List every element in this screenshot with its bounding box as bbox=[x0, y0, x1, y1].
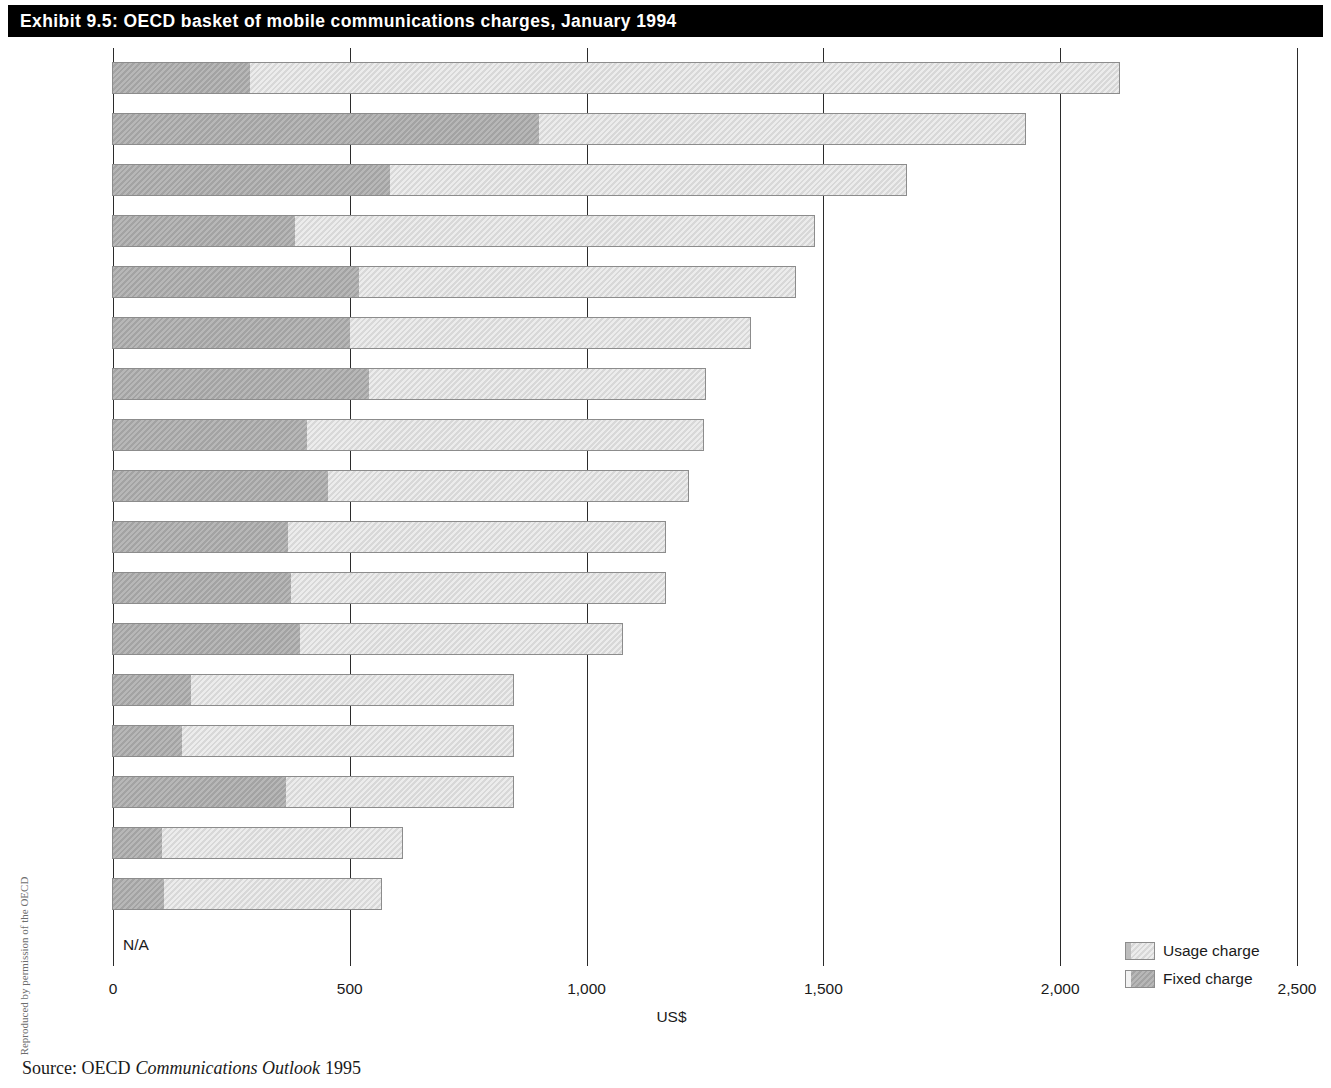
stacked-bar[interactable] bbox=[113, 777, 513, 807]
bar-row: Denmark bbox=[113, 828, 402, 858]
bar-segment-fixed[interactable] bbox=[113, 828, 162, 858]
usage-swatch-icon bbox=[1126, 943, 1154, 959]
bar-segment-usage[interactable] bbox=[164, 879, 380, 909]
bar-segment-fixed[interactable] bbox=[113, 114, 539, 144]
bar-segment-fixed[interactable] bbox=[113, 675, 191, 705]
x-axis-ticks: 05001,0001,5002,0002,500 bbox=[113, 966, 1297, 1006]
x-tick-label-2000: 2,000 bbox=[1041, 980, 1080, 998]
reproduction-credit: Reproduced by permission of the OECD bbox=[18, 866, 30, 1066]
na-marker: N/A bbox=[123, 930, 149, 960]
fixed-swatch-icon bbox=[1126, 971, 1154, 987]
stacked-bar[interactable] bbox=[113, 624, 622, 654]
stacked-bar[interactable] bbox=[113, 471, 688, 501]
bar-segment-usage[interactable] bbox=[300, 624, 622, 654]
stacked-bar[interactable] bbox=[113, 675, 513, 705]
bar-row: Turkey bbox=[113, 63, 1119, 93]
bar-segment-usage[interactable] bbox=[539, 114, 1024, 144]
exhibit-title-bar: Exhibit 9.5: OECD basket of mobile commu… bbox=[8, 5, 1323, 37]
stacked-bar[interactable] bbox=[113, 573, 665, 603]
stacked-bar[interactable] bbox=[113, 267, 795, 297]
plot-area: TurkeyFrancePortugalGermanySpainUKLuxemb… bbox=[113, 48, 1297, 966]
bar-segment-usage[interactable] bbox=[390, 165, 906, 195]
stacked-bar[interactable] bbox=[113, 828, 402, 858]
bar-segment-fixed[interactable] bbox=[113, 777, 286, 807]
stacked-bar[interactable] bbox=[113, 420, 703, 450]
x-tick-label-1500: 1,500 bbox=[804, 980, 843, 998]
stacked-bar[interactable] bbox=[113, 522, 665, 552]
bar-segment-usage[interactable] bbox=[295, 216, 814, 246]
bar-row: Belgium bbox=[113, 573, 665, 603]
chart-container: TurkeyFrancePortugalGermanySpainUKLuxemb… bbox=[0, 40, 1331, 1040]
stacked-bar[interactable] bbox=[113, 63, 1119, 93]
bar-segment-fixed[interactable] bbox=[113, 420, 307, 450]
bar-segment-fixed[interactable] bbox=[113, 267, 359, 297]
bar-segment-usage[interactable] bbox=[291, 573, 665, 603]
source-prefix: Source: OECD bbox=[22, 1058, 130, 1078]
bar-segment-fixed[interactable] bbox=[113, 879, 164, 909]
bar-segment-fixed[interactable] bbox=[113, 624, 300, 654]
bar-segment-usage[interactable] bbox=[350, 318, 750, 348]
bar-segment-usage[interactable] bbox=[286, 777, 513, 807]
gridline-2500 bbox=[1297, 48, 1298, 966]
bar-segment-usage[interactable] bbox=[369, 369, 705, 399]
legend-label-fixed: Fixed charge bbox=[1163, 970, 1253, 988]
bar-segment-usage[interactable] bbox=[182, 726, 514, 756]
bar-segment-fixed[interactable] bbox=[113, 369, 369, 399]
bar-row: Portugal bbox=[113, 165, 906, 195]
stacked-bar[interactable] bbox=[113, 165, 906, 195]
bar-row: Ireland bbox=[113, 624, 622, 654]
bar-segment-usage[interactable] bbox=[359, 267, 795, 297]
bar-row: Sweden bbox=[113, 726, 513, 756]
bar-segment-fixed[interactable] bbox=[113, 726, 182, 756]
bar-row: Finland bbox=[113, 879, 381, 909]
bar-row: Norway bbox=[113, 675, 513, 705]
bar-segment-fixed[interactable] bbox=[113, 471, 328, 501]
stacked-bar[interactable] bbox=[113, 726, 513, 756]
legend-item-fixed: Fixed charge bbox=[1126, 965, 1316, 993]
chart-legend: Usage charge Fixed charge bbox=[1126, 937, 1316, 993]
bar-segment-fixed[interactable] bbox=[113, 318, 350, 348]
bar-row: Switzerland bbox=[113, 777, 513, 807]
bar-row: Austria bbox=[113, 522, 665, 552]
stacked-bar[interactable] bbox=[113, 369, 705, 399]
bar-row: Italy bbox=[113, 471, 688, 501]
bar-row: France bbox=[113, 114, 1025, 144]
x-axis-title: US$ bbox=[0, 1008, 1331, 1026]
bar-segment-usage[interactable] bbox=[307, 420, 702, 450]
x-tick-label-0: 0 bbox=[109, 980, 118, 998]
bar-segment-usage[interactable] bbox=[328, 471, 688, 501]
source-note: Source: OECDCommunications Outlook1995 bbox=[22, 1058, 366, 1079]
bar-segment-usage[interactable] bbox=[250, 63, 1119, 93]
legend-item-usage: Usage charge bbox=[1126, 937, 1316, 965]
x-tick-label-500: 500 bbox=[337, 980, 363, 998]
bar-segment-usage[interactable] bbox=[288, 522, 665, 552]
x-axis-title-label: US$ bbox=[656, 1008, 686, 1025]
bar-segment-fixed[interactable] bbox=[113, 165, 390, 195]
bar-segment-fixed[interactable] bbox=[113, 573, 291, 603]
stacked-bar[interactable] bbox=[113, 114, 1025, 144]
stacked-bar[interactable] bbox=[113, 318, 750, 348]
bar-segment-fixed[interactable] bbox=[113, 522, 288, 552]
page-title: Exhibit 9.5: OECD basket of mobile commu… bbox=[20, 11, 677, 32]
bar-segment-usage[interactable] bbox=[162, 828, 402, 858]
bar-segment-fixed[interactable] bbox=[113, 63, 250, 93]
source-publication: Communications Outlook bbox=[135, 1058, 320, 1078]
bar-row: Spain bbox=[113, 267, 795, 297]
bar-row: Netherlands bbox=[113, 420, 703, 450]
legend-label-usage: Usage charge bbox=[1163, 942, 1260, 960]
bar-segment-fixed[interactable] bbox=[113, 216, 295, 246]
stacked-bar[interactable] bbox=[113, 216, 814, 246]
bar-row: Germany bbox=[113, 216, 814, 246]
bar-row: UK bbox=[113, 318, 750, 348]
bar-rows: TurkeyFrancePortugalGermanySpainUKLuxemb… bbox=[113, 48, 1297, 966]
bar-segment-usage[interactable] bbox=[191, 675, 513, 705]
stacked-bar[interactable] bbox=[113, 879, 381, 909]
bar-row: Luxembourg bbox=[113, 369, 705, 399]
source-year: 1995 bbox=[325, 1058, 361, 1078]
x-tick-label-1000: 1,000 bbox=[567, 980, 606, 998]
